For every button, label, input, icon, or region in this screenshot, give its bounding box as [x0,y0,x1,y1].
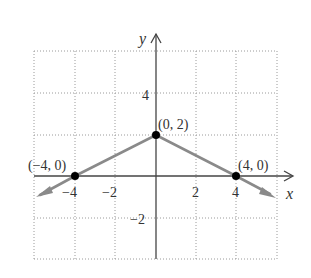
x-axis-label: x [285,185,293,202]
x-tick-label: 4 [232,185,239,200]
x-tick-label: −4 [62,185,77,200]
y-axis-label: y [137,30,147,48]
point-label: (−4, 0) [28,158,67,174]
y-tick-label: −2 [130,212,145,227]
left-arrow-icon [36,186,53,197]
right-arrow-icon [259,187,276,198]
point-0-2 [152,131,160,139]
graph: x y −4 −2 2 4 4 −2 (−4, 0) (0, 2) (4, 0) [0,0,311,278]
point-label: (0, 2) [158,117,189,133]
x-tick-label: −2 [102,185,117,200]
point-label: (4, 0) [238,158,269,174]
x-tick-label: 2 [192,185,199,200]
axes [34,34,293,259]
point-4-0 [232,172,240,180]
point-neg4-0 [71,172,79,180]
y-tick-label: 4 [142,88,149,103]
